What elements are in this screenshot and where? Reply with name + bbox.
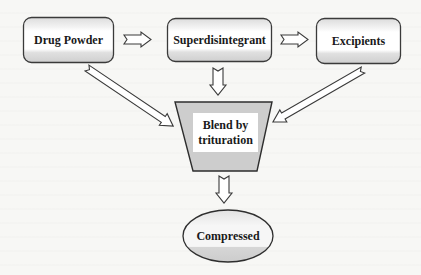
arrow-down-icon (210, 68, 226, 95)
node-blend-label-line1: Blend by (203, 118, 249, 133)
node-blend-label-line2: trituration (198, 133, 253, 148)
node-blend-label: Blend by trituration (193, 113, 258, 152)
node-excipients-label: Excipients (316, 18, 401, 64)
arrow-right-icon (124, 32, 151, 47)
arrow-diagonal-icon (269, 64, 366, 128)
arrow-right-icon (281, 32, 308, 47)
node-drug-powder-label: Drug Powder (23, 17, 114, 63)
node-compressed-label: Compressed (183, 210, 273, 262)
arrow-down-icon (216, 176, 232, 203)
node-superdisintegrant-label: Superdisintegrant (167, 18, 272, 62)
arrow-diagonal-icon (83, 62, 177, 132)
